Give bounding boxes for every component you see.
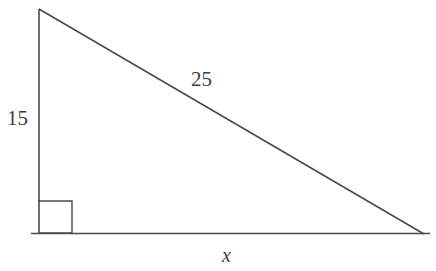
geometry-figure: 15 25 x: [0, 0, 436, 271]
vertical-leg-label: 15: [7, 108, 28, 129]
horizontal-leg-label: x: [222, 245, 231, 265]
hypotenuse-label: 25: [191, 69, 212, 90]
right-angle-marker-icon: [38, 201, 72, 233]
triangle-drawing: [0, 0, 436, 271]
hypotenuse-line: [39, 9, 424, 234]
